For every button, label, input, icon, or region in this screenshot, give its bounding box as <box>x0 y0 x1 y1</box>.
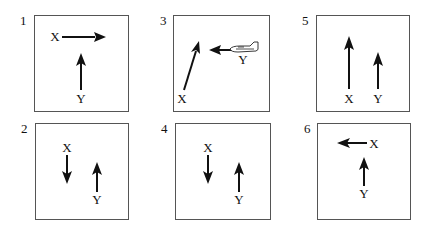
label-y: Y <box>238 52 248 67</box>
panel-frame <box>36 124 129 220</box>
label-y: Y <box>373 91 383 106</box>
label-y: Y <box>92 192 102 207</box>
panel-number: 4 <box>161 121 168 136</box>
panel-5: 5 X Y <box>302 13 410 112</box>
label-x: X <box>62 140 72 155</box>
panel-2: 2 X Y <box>21 121 129 220</box>
panel-number: 6 <box>304 121 311 136</box>
label-y: Y <box>234 192 244 207</box>
panel-frame <box>317 16 410 112</box>
panel-1: 1 X Y <box>20 13 129 112</box>
label-x: X <box>369 136 379 151</box>
panel-number: 3 <box>160 13 167 28</box>
motion-diagram: 1 X Y 3 X Y 5 <box>0 0 428 229</box>
label-x: X <box>50 29 60 44</box>
panel-frame <box>176 124 271 220</box>
panel-6: 6 X Y <box>304 121 411 220</box>
label-x: X <box>344 91 354 106</box>
panel-3: 3 X Y <box>160 13 270 112</box>
panel-number: 2 <box>21 121 28 136</box>
label-x: X <box>203 140 213 155</box>
panel-number: 5 <box>302 13 309 28</box>
label-y: Y <box>76 91 86 106</box>
panel-number: 1 <box>20 13 27 28</box>
panel-frame <box>174 16 270 112</box>
label-y: Y <box>359 186 369 201</box>
label-x: X <box>177 91 187 106</box>
panel-4: 4 X Y <box>161 121 271 220</box>
